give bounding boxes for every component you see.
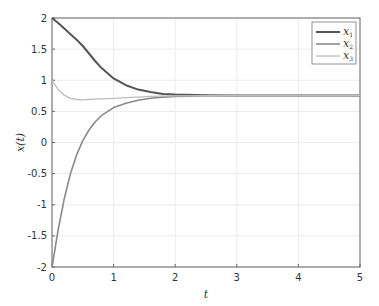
y-tick-label: -2 [37,262,47,273]
x-tick-label: 0 [49,272,55,283]
x-axis-label: t [204,288,209,301]
line-chart: 012345-2-1.5-1-0.500.511.52tx(t)x1x2x3 [0,0,379,306]
y-tick-label: 1 [41,75,47,86]
y-tick-label: 0.5 [31,106,47,117]
x-tick-label: 2 [172,272,178,283]
y-tick-label: -1.5 [27,230,47,241]
y-axis-label: x(t) [14,133,27,152]
x-tick-label: 3 [234,272,240,283]
series-line-x2 [52,96,360,268]
y-tick-label: 1.5 [31,44,47,55]
x-tick-label: 4 [295,272,301,283]
y-tick-label: -0.5 [27,168,47,179]
y-tick-label: -1 [37,199,47,210]
series-line-x3 [52,80,360,100]
y-tick-label: 2 [41,13,47,24]
x-tick-label: 5 [357,272,363,283]
x-tick-label: 1 [110,272,116,283]
y-tick-label: 0 [41,137,47,148]
